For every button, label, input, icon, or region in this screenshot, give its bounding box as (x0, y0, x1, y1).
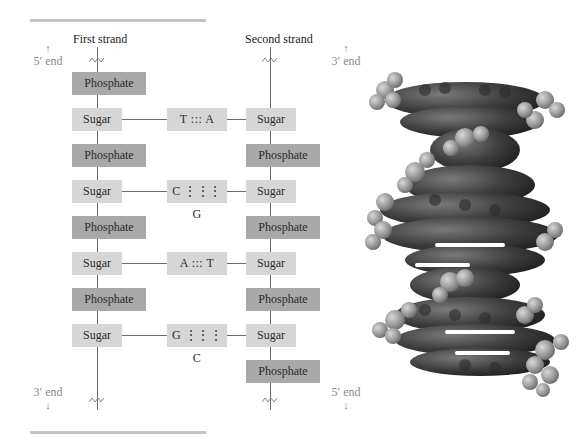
bottom-rule (30, 431, 206, 434)
top-rule (30, 19, 206, 22)
first-strand-title: First strand (73, 32, 127, 47)
first-strand-phosphate: Phosphate (72, 72, 146, 95)
second-strand-sugar: Sugar (246, 324, 296, 347)
end-label-text: 3′ end (326, 55, 366, 68)
second-strand-phosphate: Phosphate (246, 360, 320, 383)
first-strand-sugar: Sugar (72, 324, 122, 347)
first-strand-phosphate: Phosphate (72, 216, 146, 239)
base-pair-g-c: G ⋮⋮⋮ C (167, 324, 227, 347)
first-strand-sugar: Sugar (72, 252, 122, 275)
second-strand-sugar: Sugar (246, 108, 296, 131)
second-strand-sugar: Sugar (246, 252, 296, 275)
second-strand-title: Second strand (245, 32, 313, 47)
end-label-text: 5′ end (326, 386, 366, 399)
break-mark-icon (89, 396, 105, 404)
dna-space-filling-model-image (365, 60, 575, 400)
arrow-down-icon: ↓ (28, 399, 68, 412)
first-strand-phosphate: Phosphate (72, 144, 146, 167)
break-mark-icon (89, 56, 105, 64)
first-strand-bottom-end: 3′ end ↓ (28, 386, 68, 412)
second-strand-phosphate: Phosphate (246, 288, 320, 311)
second-strand-top-end: ↑ 3′ end (326, 42, 366, 68)
base-pair-c-g: C ⋮⋮⋮ G (167, 180, 227, 203)
first-strand-phosphate: Phosphate (72, 288, 146, 311)
second-strand-phosphate: Phosphate (246, 144, 320, 167)
first-strand-sugar: Sugar (72, 108, 122, 131)
second-strand-bottom-end: 5′ end ↓ (326, 386, 366, 412)
base-pair-t-a: T ::: A (167, 108, 227, 131)
end-label-text: 5′ end (28, 55, 68, 68)
break-mark-icon (262, 56, 278, 64)
first-strand-top-end: ↑ 5′ end (28, 42, 68, 68)
arrow-down-icon: ↓ (326, 399, 366, 412)
end-label-text: 3′ end (28, 386, 68, 399)
second-strand-phosphate: Phosphate (246, 216, 320, 239)
break-mark-icon (262, 396, 278, 404)
base-pair-a-t: A ::: T (167, 252, 227, 275)
first-strand-sugar: Sugar (72, 180, 122, 203)
second-strand-sugar: Sugar (246, 180, 296, 203)
